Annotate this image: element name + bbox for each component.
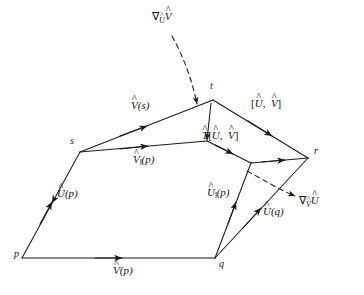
hat-icon: ^ (131, 94, 138, 104)
field-base-u: ^U (212, 130, 220, 141)
field-base-v: ^V (165, 11, 172, 22)
vertex-label-t: t (210, 81, 213, 91)
hat-icon: ^ (212, 124, 220, 134)
field-args: (s) (138, 99, 150, 111)
label-u-of-q: ^U(q) (263, 206, 284, 217)
field-args: (q) (271, 205, 284, 217)
arrowhead-u-par-of-p (228, 202, 236, 224)
field-args: (p) (141, 153, 154, 165)
arrowhead-n-to-r (262, 160, 285, 162)
comma: , (220, 129, 223, 141)
leader-grad-u-v (172, 36, 197, 104)
field-base-v: ^V (133, 154, 140, 165)
hat-icon: ^ (207, 181, 215, 191)
vertex-label-p: p (14, 249, 19, 259)
label-v-par-of-p: ^V‖(p) (133, 154, 154, 167)
vertex-label-q: q (219, 259, 224, 269)
comma: , (263, 97, 266, 109)
torsion-symbol: ^T (202, 130, 208, 141)
label-grad-u-v: ∇^U^V (152, 11, 171, 24)
nabla-icon: ∇ (152, 10, 159, 22)
label-v-of-s: ^V(s) (131, 100, 149, 111)
diagram-svg (0, 0, 364, 295)
field-base-u: ^U (311, 195, 319, 206)
field-base-u: ^U (207, 187, 215, 198)
label-u-par-of-p: ^U‖(p) (207, 187, 230, 200)
bracket-close: ] (235, 129, 239, 141)
arrowhead-u-of-p-line (40, 202, 52, 224)
hat-icon: ^ (165, 5, 172, 15)
field-base-u: ^U (57, 188, 65, 199)
label-torsion-uv: ^T[^U, ^V] (202, 130, 238, 141)
label-u-of-p: ^U(p) (57, 188, 78, 199)
hat-icon: ^ (113, 259, 120, 269)
field-base-v: ^V (271, 98, 278, 109)
field-base-v: ^V (228, 130, 235, 141)
arrowhead-v-of-s (120, 126, 147, 136)
bracket-close: ] (278, 97, 282, 109)
figure-canvas: p q s t r ∇^U^V ∇^V^U ^V(s) ^V‖(p) ^U(p)… (0, 0, 364, 295)
hat-icon: ^ (255, 92, 263, 102)
hat-icon: ^ (311, 189, 319, 199)
field-base-v: ^V (113, 265, 120, 276)
edge-p-to-s (22, 152, 80, 258)
field-base-v: ^V (131, 100, 138, 111)
hat-icon: ^ (263, 200, 271, 210)
label-grad-v-u: ∇^V^U (299, 195, 319, 208)
field-args: (p) (217, 186, 230, 198)
hat-icon: ^ (228, 124, 235, 134)
hat-icon: ^ (202, 124, 208, 134)
hat-icon: ^ (271, 92, 278, 102)
leader-grad-v-u (247, 171, 295, 196)
vertex-label-s: s (70, 136, 74, 146)
field-args: (p) (120, 264, 133, 276)
field-args: (p) (65, 187, 78, 199)
label-v-of-p: ^V(p) (113, 265, 133, 276)
arrowhead-torsion (215, 145, 233, 154)
nabla-icon: ∇ (299, 194, 306, 206)
field-base-u: ^U (255, 98, 263, 109)
field-base-u: ^U (263, 206, 271, 217)
hat-icon: ^ (57, 182, 65, 192)
arrowhead-u-of-q (243, 208, 261, 228)
arrowhead-commutator (248, 121, 272, 136)
hat-icon: ^ (133, 148, 140, 158)
label-commutator-uv: [^U, ^V] (251, 98, 281, 109)
vertex-label-r: r (314, 146, 318, 156)
